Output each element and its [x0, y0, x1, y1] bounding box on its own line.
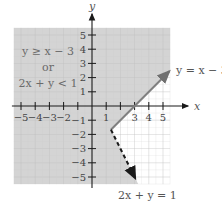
x-tick-label: 1 [103, 112, 109, 123]
y-tick-label: −5 [71, 172, 86, 183]
y-tick-label: 2 [80, 72, 86, 83]
y-tick-label: 1 [80, 86, 86, 97]
region-label-line: y ≥ x − 3 [21, 45, 74, 58]
x-tick-label: 4 [146, 112, 152, 123]
x-tick-label: −2 [56, 112, 71, 123]
inequality-graph: xy −5−4−3−21345−5−4−3−2−112345y = x − 32… [0, 0, 222, 210]
y-tick-label: 4 [80, 44, 86, 55]
x-tick-label: −4 [28, 112, 43, 123]
x-axis-label: x [194, 100, 201, 113]
x-tick-label: −5 [14, 112, 29, 123]
y-tick-label: −1 [71, 115, 86, 126]
x-tick-label: 3 [131, 112, 137, 123]
y-tick-label: 3 [80, 58, 86, 69]
region-label-line: or [42, 61, 55, 74]
y-tick-label: 5 [80, 30, 86, 41]
y-tick-label: −3 [71, 143, 86, 154]
x-tick-label: 5 [160, 112, 166, 123]
y-axis-label: y [88, 0, 96, 13]
x-tick-label: −3 [42, 112, 57, 123]
region-label-line: 2x + y < 1 [19, 77, 78, 90]
label-2x-plus-y-equals-1: 2x + y = 1 [118, 189, 177, 202]
label-y-equals-x-minus-3: y = x − 3 [175, 64, 222, 77]
y-tick-label: −4 [71, 157, 86, 168]
y-tick-label: −2 [71, 129, 86, 140]
